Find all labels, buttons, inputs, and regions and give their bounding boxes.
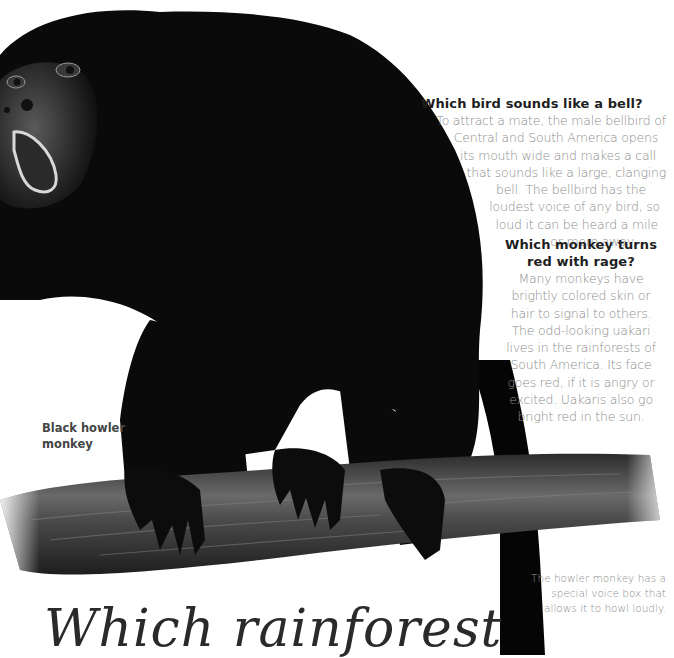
body-line: loud it can be heard a mile	[411, 216, 658, 233]
caption-line: allows it to howl loudly.	[496, 601, 666, 616]
body-line: The odd-looking uakari	[496, 322, 666, 339]
body-line: bell. The bellbird has the	[411, 181, 646, 198]
uakari-heading: Which monkey turns red with rage?	[496, 236, 666, 270]
caption-line: Black howler	[42, 421, 125, 437]
bellbird-body: To attract a mate, the male bellbird of …	[411, 112, 666, 250]
body-line: that sounds like a large, clanging	[411, 164, 666, 181]
body-line: South America. Its face	[496, 356, 666, 373]
heading-line: Which monkey turns	[496, 236, 666, 253]
body-line: Central and South America opens	[411, 129, 658, 146]
heading-line: red with rage?	[496, 253, 666, 270]
page-title: Which rainforest	[44, 598, 502, 658]
caption-line: The howler monkey has a	[496, 571, 666, 586]
caption-line: special voice box that	[496, 586, 666, 601]
body-line: excited. Uakaris also go	[496, 391, 666, 408]
body-line: Many monkeys have	[496, 270, 666, 287]
body-line: goes red, if it is angry or	[496, 374, 666, 391]
illustration-caption: Black howler monkey	[42, 421, 125, 452]
body-line: lives in the rainforests of	[496, 339, 666, 356]
bellbird-heading: Which bird sounds like a bell?	[411, 95, 666, 112]
uakari-section: Which monkey turns red with rage? Many m…	[496, 236, 666, 426]
body-line: To attract a mate, the male bellbird of	[411, 112, 666, 129]
body-line: hair to signal to others.	[496, 305, 666, 322]
body-line: its mouth wide and makes a call	[411, 147, 656, 164]
body-line: bright red in the sun.	[496, 408, 666, 425]
voice-box-caption: The howler monkey has a special voice bo…	[496, 571, 666, 616]
body-line: brightly colored skin or	[496, 287, 666, 304]
body-line: loudest voice of any bird, so	[411, 198, 660, 215]
caption-line: monkey	[42, 437, 125, 453]
uakari-body: Many monkeys have brightly colored skin …	[496, 270, 666, 426]
bellbird-section: Which bird sounds like a bell? To attrac…	[411, 95, 666, 250]
